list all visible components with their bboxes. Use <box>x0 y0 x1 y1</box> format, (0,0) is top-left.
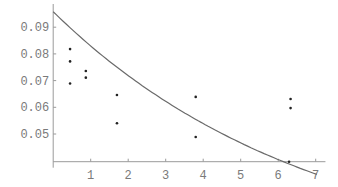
data-point <box>69 48 72 51</box>
y-tick-label: 0.09 <box>20 21 49 35</box>
x-tick-label: 6 <box>275 169 282 183</box>
y-tick-label: 0.06 <box>20 101 49 115</box>
x-tick-label: 5 <box>237 169 244 183</box>
axes <box>53 4 325 168</box>
x-tick-label: 1 <box>87 169 94 183</box>
data-point <box>69 82 72 85</box>
data-point <box>69 60 72 63</box>
data-points <box>69 48 292 163</box>
data-point <box>288 160 291 163</box>
data-point <box>85 70 88 73</box>
y-tick-label: 0.08 <box>20 48 49 62</box>
data-point <box>85 76 88 79</box>
y-tick-label: 0.05 <box>20 128 49 142</box>
x-tick-label: 2 <box>125 169 132 183</box>
fitted-curve <box>53 12 317 175</box>
x-tick-label: 7 <box>312 169 319 183</box>
x-tick-label: 3 <box>162 169 169 183</box>
y-tick-label: 0.07 <box>20 75 49 89</box>
scatter-plot: 12345670.050.060.070.080.09 <box>0 0 338 187</box>
data-point <box>194 136 197 139</box>
x-tick-label: 4 <box>200 169 207 183</box>
data-point <box>289 107 292 110</box>
data-point <box>194 96 197 99</box>
data-point <box>289 98 292 101</box>
data-point <box>116 122 119 125</box>
data-point <box>116 94 119 97</box>
